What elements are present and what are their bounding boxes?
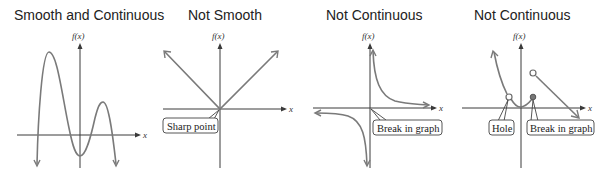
x-axis-label: x [142,130,147,140]
y-axis-arrow-icon [519,43,524,49]
absolute-value-curve [165,52,277,109]
graph-smooth-continuous: f(x) x [17,31,147,168]
jump-open-circle [530,70,536,76]
x-axis-arrow-icon [431,106,437,111]
upper-branch-curve [373,51,428,105]
y-axis-arrow-icon [368,43,373,49]
callout-label: Break in graph [530,123,593,134]
x-axis-arrow-icon [135,133,141,138]
y-axis-label: f(x) [72,31,85,41]
callout-hole: Hole [489,100,514,135]
filled-point [530,94,536,100]
x-axis-label: x [438,103,443,113]
graph-not-smooth: f(x) x Sharp point [163,31,293,168]
x-axis-label: x [288,104,293,114]
x-axis-arrow-icon [281,107,287,112]
lower-branch-curve [316,113,367,165]
callout-break-in-graph: Break in graph [371,109,442,135]
hole-open-circle [506,94,512,100]
callout-sharp-point: Sharp point [163,110,219,133]
y-axis-label: f(x) [362,31,375,41]
callout-label: Hole [492,123,513,134]
callout-break-in-graph: Break in graph [527,100,594,135]
y-axis-arrow-icon [78,43,83,49]
left-branch-curve [494,52,507,94]
callout-label: Sharp point [167,121,216,132]
y-axis-arrow-icon [218,43,223,49]
graph-not-continuous-hole: f(x) x Hole Break in graph [462,31,594,168]
x-axis-label: x [587,103,592,113]
polynomial-curve [37,52,116,164]
callout-label: Break in graph [377,123,440,134]
right-line-curve [536,76,578,117]
y-axis-label: f(x) [212,31,225,41]
y-axis-label: f(x) [513,31,526,41]
graph-not-continuous-asymptote: f(x) x Break in graph [313,31,443,168]
x-axis-arrow-icon [580,106,586,111]
